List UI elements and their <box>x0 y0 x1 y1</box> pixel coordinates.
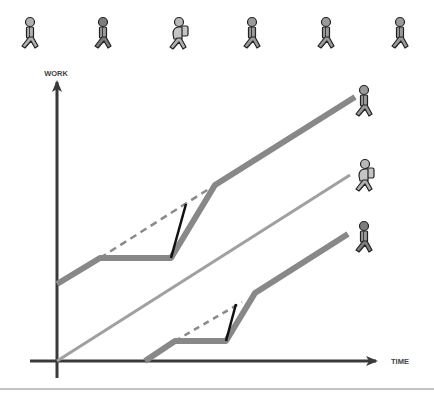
backpacker-icon <box>170 18 188 50</box>
walker-icon <box>392 18 408 49</box>
top-figure-row <box>22 18 408 50</box>
upper-path-walker-icon <box>356 86 372 117</box>
work-time-diagram: WORK TIME <box>0 0 434 393</box>
lower-path-walker-icon <box>356 222 372 253</box>
walker-icon <box>318 18 334 49</box>
upper-dashed-projection <box>100 185 215 258</box>
x-axis-label: TIME <box>391 357 409 366</box>
middle-path-backpacker-icon <box>356 160 374 192</box>
walker-icon <box>95 18 111 49</box>
y-axis-label: WORK <box>44 69 68 78</box>
walker-icon <box>244 18 260 49</box>
walker-icon <box>22 18 38 49</box>
